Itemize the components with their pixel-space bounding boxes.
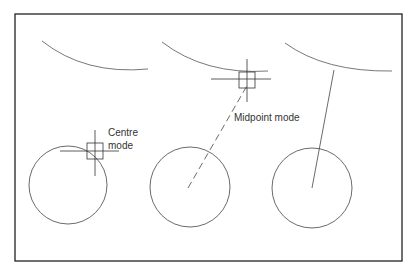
circle-2 bbox=[150, 147, 230, 227]
result-panel bbox=[272, 43, 392, 228]
centre-label-line1: Centre bbox=[108, 127, 138, 138]
arc-1 bbox=[42, 41, 148, 70]
midpoint-label: Midpoint mode bbox=[234, 112, 300, 123]
crosshair-cursor-icon bbox=[211, 59, 271, 102]
snap-mode-diagram: Centre mode Midpoint mode bbox=[0, 0, 416, 275]
arc-2 bbox=[162, 42, 268, 71]
radius-line bbox=[312, 70, 334, 188]
arc-3 bbox=[285, 43, 392, 71]
midpoint-mode-panel: Midpoint mode bbox=[150, 42, 300, 227]
centre-label-line2: mode bbox=[108, 140, 133, 151]
centre-mode-panel: Centre mode bbox=[29, 41, 148, 224]
dashed-radius-line bbox=[188, 84, 248, 188]
